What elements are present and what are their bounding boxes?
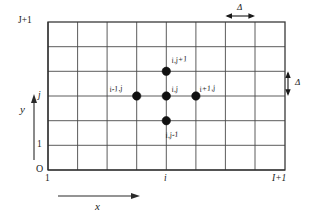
stencil-label-center: i,j	[171, 85, 178, 94]
stencil-node-south	[162, 117, 170, 125]
stencil-node-west	[133, 92, 141, 100]
stencil-node-east	[192, 92, 200, 100]
stencil-label-west: i-1,j	[109, 84, 123, 94]
stencil-node-north	[162, 67, 170, 75]
horizontal-spacing-arrow	[225, 13, 255, 18]
y-axis-direction-arrow	[31, 94, 37, 160]
horizontal-spacing-label: Δ	[237, 3, 242, 12]
x-tick-label-right: I+1	[272, 174, 286, 184]
x-axis-label: x	[95, 201, 100, 212]
y-tick-label-one: 1	[37, 140, 42, 150]
figure-canvas	[0, 0, 318, 217]
y-tick-label-j: j	[38, 91, 41, 101]
x-tick-label-one: 1	[45, 174, 50, 184]
y-tick-label-top: J+1	[18, 16, 32, 26]
stencil-node-center	[162, 92, 170, 100]
figure-root: y x J+1 j 1 O 1 i I+1 Δ Δ i,j+1 i-1,j i,…	[0, 0, 318, 217]
y-axis-label: y	[20, 104, 25, 115]
stencil-label-south: i,j-1	[165, 130, 179, 140]
x-axis-direction-arrow	[58, 193, 140, 199]
vertical-spacing-label: Δ	[295, 78, 300, 87]
origin-label: O	[36, 164, 43, 174]
vertical-spacing-arrow	[285, 71, 290, 96]
x-tick-label-i: i	[164, 174, 167, 184]
